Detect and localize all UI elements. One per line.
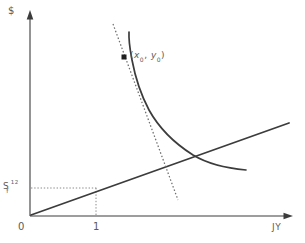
point-label-x-symbol: x — [134, 50, 140, 60]
y-axis — [27, 10, 34, 216]
x-axis-label: JY — [272, 223, 281, 232]
y-axis-label: $ — [8, 6, 15, 16]
y-level-label-subscript: f — [6, 187, 9, 194]
forward-rate-line — [31, 123, 289, 215]
y-level-label-superscript: 12 — [11, 179, 19, 185]
exchange-rate-figure: $ JY 0 1 Sf12 (x0, y0) — [0, 0, 305, 243]
plot-canvas — [0, 0, 305, 243]
tangency-point-label: (x0, y0) — [130, 51, 165, 62]
x-tick-label-0: 0 — [18, 222, 25, 232]
point-label-close-paren: ) — [161, 50, 165, 60]
x-tick-label-1: 1 — [93, 222, 100, 232]
x-axis — [30, 213, 293, 220]
point-label-y-symbol: y — [151, 50, 157, 60]
point-label-separator: , — [144, 50, 147, 60]
point-label-y-subscript: 0 — [157, 56, 161, 63]
point-label-x-subscript: 0 — [140, 56, 144, 63]
tangency-point-marker — [122, 55, 127, 60]
y-level-label: Sf12 — [3, 181, 20, 193]
